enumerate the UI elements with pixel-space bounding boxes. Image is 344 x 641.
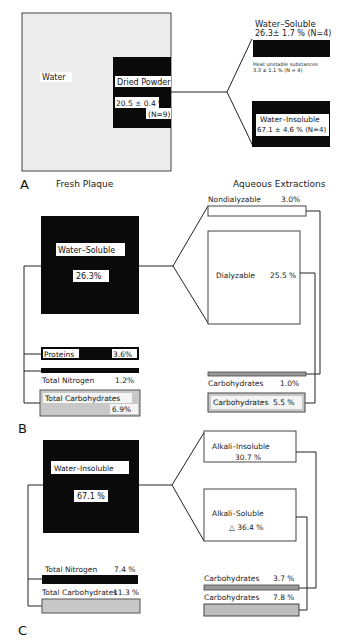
proteins-label: Proteins (44, 350, 74, 359)
connector-line (227, 39, 252, 92)
connector-line (172, 485, 204, 541)
water-soluble-label: Water–Soluble (255, 19, 316, 29)
dried-powder-value: 20.5 ± 0.4 % (116, 99, 165, 108)
carbohydrates-alkali-soluble-label: Carbohydrates (204, 593, 259, 602)
total-nitrogen-value: 1.2% (115, 376, 134, 385)
panel-letter-b: B (18, 421, 27, 436)
water-insoluble-main-label: Water–Insoluble (54, 464, 114, 473)
nondialyzable-label: Nondialyzable (208, 195, 261, 204)
carbohydrates-nondialyzable-label: Carbohydrates (208, 379, 263, 388)
water-insoluble-main-value: 67.1 % (77, 492, 105, 501)
total-carbohydrates-label: Total Carbohydrates (44, 394, 120, 403)
water-label: Water (42, 73, 66, 82)
connector-line (173, 206, 208, 266)
water-soluble-box (253, 40, 330, 57)
total-carbohydrates-c-value: 11.3 % (113, 588, 139, 597)
carbohydrates-alkali-insoluble-value: 3.7 % (273, 574, 294, 583)
fresh-plaque-caption: Fresh Plaque (56, 179, 114, 189)
water-soluble-main-box (41, 216, 139, 314)
nondialyzable-box (208, 206, 306, 216)
proteins-value: 3.6% (113, 350, 132, 359)
carbohydrates-alkali-insoluble-label: Carbohydrates (204, 574, 259, 583)
connector-line (173, 266, 208, 323)
water-insoluble-main-box (43, 440, 139, 533)
panel-b: Water–Soluble 26.3% Proteins 3.6% Total … (18, 195, 320, 436)
water-soluble-main-value: 26.3% (76, 272, 102, 281)
water-soluble-main-label: Water–Soluble (58, 246, 115, 255)
aqueous-extractions-caption: Aqueous Extractions (233, 179, 326, 189)
panel-letter-c: C (18, 623, 27, 638)
carbohydrates-alkali-soluble-box (204, 604, 299, 616)
alkali-soluble-label: Alkali–Soluble (212, 509, 264, 518)
carbohydrates-dialyzable-value: 5.5 % (273, 398, 294, 407)
total-nitrogen-c-label: Total Nitrogen (44, 565, 97, 574)
nondialyzable-value: 3.0% (281, 195, 300, 204)
carbohydrates-nondialyzable-bar (208, 372, 306, 376)
total-nitrogen-c-value: 7.4 % (114, 565, 135, 574)
panel-a: Water Dried Powder 20.5 ± 0.4 % (N=9) Wa… (20, 13, 332, 192)
dried-powder-n: (N=9) (148, 110, 171, 119)
carbohydrates-nondialyzable-value: 1.0% (280, 379, 299, 388)
panel-letter-a: A (20, 177, 29, 192)
water-insoluble-label: Water–Insoluble (260, 115, 320, 124)
connector-line (227, 92, 253, 146)
total-nitrogen-label: Total Nitrogen (41, 376, 94, 385)
alkali-insoluble-label: Alkali–Insoluble (212, 442, 270, 451)
dialyzable-value: 25.5 % (270, 271, 296, 280)
heat-unstable-value: 3.3 ± 1.1 % (N = 4) (253, 67, 302, 73)
panel-c: Water–Insoluble 67.1 % Total Nitrogen 7.… (18, 431, 316, 638)
carbohydrates-alkali-soluble-value: 7.8 % (273, 593, 294, 602)
alkali-soluble-value: △ 36.4 % (229, 523, 263, 532)
total-nitrogen-c-bar (42, 575, 138, 584)
carbohydrates-dialyzable-label: Carbohydrates (213, 398, 268, 407)
total-nitrogen-bar (41, 368, 139, 373)
fractionation-diagram: Water Dried Powder 20.5 ± 0.4 % (N=9) Wa… (0, 0, 344, 641)
alkali-insoluble-value: 30.7 % (235, 453, 261, 462)
total-carbohydrates-value: 6.9% (112, 405, 131, 414)
total-carbohydrates-c-box (42, 599, 140, 613)
dried-powder-label: Dried Powder (117, 78, 171, 87)
dialyzable-label: Dialyzable (216, 271, 255, 280)
water-soluble-value: 26.3± 1.7 % (N=4) (255, 29, 332, 38)
carbohydrates-alkali-insoluble-bar (204, 585, 299, 590)
water-insoluble-value: 67.1 ± 4.6 % (N=4) (257, 126, 326, 134)
total-carbohydrates-c-label: Total Carbohydrates (41, 588, 117, 597)
connector-line (172, 431, 205, 485)
